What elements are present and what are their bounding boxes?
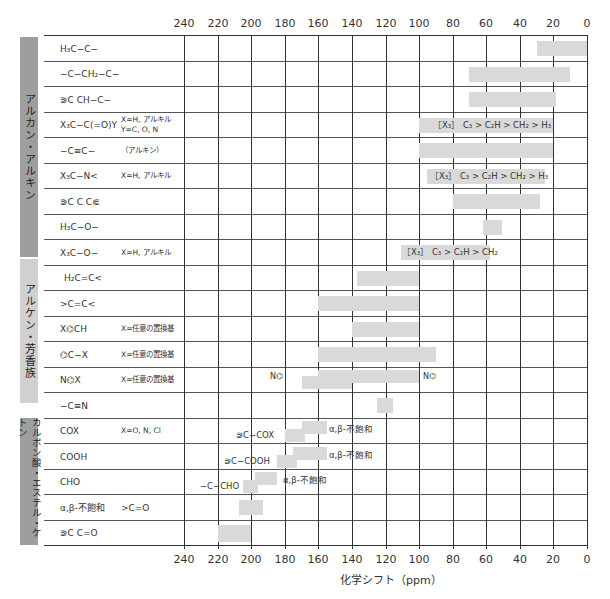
top-tick-40: 40 [513, 17, 527, 30]
struct-row-18: α,β-不飽和 [60, 503, 105, 513]
bar-row-4 [419, 143, 553, 158]
annotation-cooh-side: ⋑C−COOH [224, 456, 270, 466]
struct-row-16: COOH [60, 452, 87, 462]
struct-row-14: −C≡N [60, 401, 88, 411]
annotation-cho-ab: α,β-不飽和 [283, 473, 327, 485]
category-label-alkane: アルカン・アルキン [20, 37, 37, 257]
bottom-tick-240: 240 [174, 553, 195, 566]
bottom-tick-160: 160 [308, 553, 329, 566]
note-row-3a: X=H, アルキル [121, 115, 171, 125]
bar-row-0 [537, 41, 587, 56]
top-tick-0: 0 [584, 17, 591, 30]
note-row-13: X=任意の置換基 [121, 375, 174, 385]
struct-row-4: −C≡C− [60, 146, 95, 156]
struct-row-19: ⋑C C=O [60, 528, 98, 538]
annotation-pyridine-right: N⌬ [423, 372, 436, 381]
bottom-tick-20: 20 [546, 553, 560, 566]
x-axis-label: 化学シフト（ppm） [340, 571, 442, 587]
bottom-tick-40: 40 [513, 553, 527, 566]
bottom-tick-60: 60 [479, 553, 493, 566]
struct-row-18b: >C=O [121, 503, 149, 513]
struct-row-8: X₃C−O− [60, 248, 98, 258]
top-tick-60: 60 [479, 17, 493, 30]
top-axis-line [44, 35, 588, 36]
bottom-tick-140: 140 [342, 553, 363, 566]
struct-row-9: H₂C=C< [64, 273, 102, 283]
struct-row-6: ⋑C C C⋐ [60, 197, 100, 207]
bottom-tick-80: 80 [446, 553, 460, 566]
note-row-11: X=任意の置換基 [121, 324, 174, 334]
struct-row-12: ⌬C−X [60, 350, 88, 360]
bar-row-17b [255, 472, 277, 485]
bar-label-row-5: ［X₃］ C₃ > C₂H > CH₂ > H₃ [430, 168, 548, 184]
top-tick-80: 80 [446, 17, 460, 30]
struct-row-5: X₃C−N< [60, 171, 98, 181]
note-row-4: （アルキン） [121, 146, 163, 156]
bottom-tick-220: 220 [208, 553, 229, 566]
note-row-5: X=H, アルキル [121, 171, 171, 181]
top-tick-240: 240 [174, 17, 195, 30]
struct-row-17: CHO [60, 477, 80, 487]
bar-row-1 [469, 67, 570, 82]
category-label-carbonyl: カルボン酸・エステル・ケトン [20, 418, 37, 545]
struct-row-13: N⌬X [60, 375, 81, 385]
top-tick-100: 100 [409, 17, 430, 30]
bar-row-16b [293, 447, 327, 460]
note-row-3b: Y=C, O, N [121, 125, 158, 135]
annotation-cho-side: −C−CHO [200, 481, 239, 491]
bar-row-2 [469, 92, 556, 107]
top-tick-180: 180 [275, 17, 296, 30]
struct-row-10: >C=C< [60, 299, 95, 309]
bar-row-14 [377, 398, 393, 413]
bar-row-12 [318, 347, 436, 362]
bar-row-6 [453, 194, 540, 209]
struct-row-11: X⌬CH [60, 324, 87, 334]
bottom-tick-100: 100 [409, 553, 430, 566]
top-tick-220: 220 [208, 17, 229, 30]
bar-row-7 [483, 220, 502, 235]
note-row-8: X=H, アルキル [121, 248, 171, 258]
struct-row-0: H₃C−C− [60, 44, 98, 54]
annotation-pyridine-left: N⌬ [270, 372, 283, 381]
bottom-tick-120: 120 [376, 553, 397, 566]
bar-row-10 [318, 296, 419, 311]
note-row-12: X=任意の置換基 [121, 350, 174, 360]
bottom-tick-0: 0 [584, 553, 591, 566]
bar-label-row-8: ［X₃］ C₃ > C₂H > CH₂ [402, 244, 498, 260]
annotation-cooh-ab: α,β-不飽和 [329, 448, 373, 460]
bar-row-9 [357, 271, 419, 286]
top-tick-120: 120 [376, 17, 397, 30]
bar-row-11 [352, 322, 419, 337]
top-tick-140: 140 [342, 17, 363, 30]
bar-label-row-3: ［X₃］ C₃ > C₂H > CH₂ > H₃ [433, 117, 551, 133]
note-row-15: X=O, N, Cl [121, 426, 161, 436]
struct-row-15: COX [60, 426, 79, 436]
bottom-tick-180: 180 [275, 553, 296, 566]
bar-row-13b [302, 376, 352, 389]
struct-row-7: H₃C−O− [60, 222, 99, 232]
annotation-cox-side: ⋑C−COX [236, 430, 274, 440]
bar-row-15b [302, 421, 327, 434]
top-tick-200: 200 [241, 17, 262, 30]
bar-row-19 [218, 525, 251, 542]
bottom-tick-200: 200 [241, 553, 262, 566]
struct-row-3: X₃C−C(=O)Y [60, 120, 117, 130]
annotation-cox-ab: α,β-不飽和 [329, 422, 373, 434]
top-tick-20: 20 [546, 17, 560, 30]
struct-row-2: ⋑C CH−C− [60, 95, 111, 105]
category-label-alkene: アルケン・芳香族 [20, 259, 37, 403]
top-tick-160: 160 [308, 17, 329, 30]
struct-row-1: −C−CH₂−C− [60, 69, 119, 79]
bar-row-18 [239, 500, 263, 515]
